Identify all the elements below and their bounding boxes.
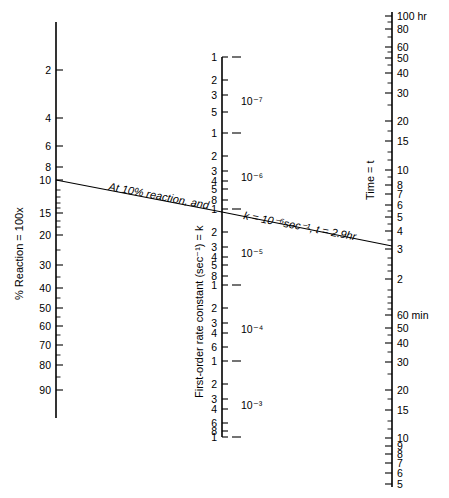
index-line-group: At 10% reaction, and k = 10⁻⁶sec⁻¹, t = … xyxy=(56,180,392,246)
tick-label: 70 xyxy=(39,339,51,351)
tick-label: 2 xyxy=(397,273,403,285)
tick-label: 90 xyxy=(39,384,51,396)
decade-label: 10⁻⁷ xyxy=(241,95,263,107)
index-line-annotation-right: k = 10⁻⁶sec⁻¹, t = 2.9hr xyxy=(243,209,359,242)
tick-label: 10 xyxy=(39,174,51,186)
nomogram-figure: 246810152030405060708090 % Reaction = 10… xyxy=(0,0,449,498)
tick-label: 4 xyxy=(211,327,217,339)
percent-reaction-ticks xyxy=(56,70,63,390)
nomogram-canvas: 246810152030405060708090 % Reaction = 10… xyxy=(0,0,449,498)
time-tick-labels: 100 hr8060504030201510876543260 min50403… xyxy=(397,10,429,490)
tick-label: 40 xyxy=(39,282,51,294)
percent-reaction-axis-title: % Reaction = 100x xyxy=(13,207,25,300)
tick-label: 50 xyxy=(397,322,409,334)
tick-label: 1 xyxy=(211,203,217,215)
tick-label: 4 xyxy=(397,225,403,237)
tick-label: 40 xyxy=(397,337,409,349)
rate-constant-decade-labels: 10⁻⁷10⁻⁶10⁻⁵10⁻⁴10⁻³ xyxy=(241,95,263,411)
tick-label: 30 xyxy=(397,356,409,368)
index-line-annotation-left: At 10% reaction, and xyxy=(107,180,211,211)
tick-label: 4 xyxy=(45,112,51,124)
tick-label: 20 xyxy=(397,384,409,396)
tick-label: 5 xyxy=(211,106,217,118)
tick-label: 1 xyxy=(211,127,217,139)
axis-rate-constant: 1235123458123458123461234681 10⁻⁷10⁻⁶10⁻… xyxy=(193,51,263,443)
tick-label: 4 xyxy=(211,403,217,415)
decade-label: 10⁻⁴ xyxy=(241,323,263,335)
tick-label: 2 xyxy=(211,74,217,86)
tick-label: 60 xyxy=(39,320,51,332)
tick-label: 20 xyxy=(39,229,51,241)
tick-label: 8 xyxy=(45,161,51,173)
tick-label: 1 xyxy=(211,355,217,367)
tick-label: 40 xyxy=(397,67,409,79)
tick-label: 15 xyxy=(397,135,409,147)
tick-label: 50 xyxy=(397,52,409,64)
tick-label: 1 xyxy=(211,279,217,291)
time-ticks xyxy=(385,16,392,484)
tick-label: 15 xyxy=(39,207,51,219)
tick-label: 1 xyxy=(211,431,217,443)
tick-label: 2 xyxy=(211,150,217,162)
rate-constant-tick-labels: 1235123458123458123461234681 xyxy=(211,51,217,443)
tick-label: 2 xyxy=(45,64,51,76)
time-axis-title: Time = t xyxy=(364,160,376,200)
tick-label: 10 xyxy=(397,164,409,176)
axis-percent-reaction: 246810152030405060708090 % Reaction = 10… xyxy=(13,22,63,418)
tick-label: 6 xyxy=(211,341,217,353)
tick-label: 80 xyxy=(397,23,409,35)
tick-label: 2 xyxy=(211,378,217,390)
tick-label: 5 xyxy=(397,478,403,490)
decade-label: 10⁻³ xyxy=(241,399,263,411)
tick-label: 5 xyxy=(397,211,403,223)
tick-label: 3 xyxy=(211,89,217,101)
tick-label: 15 xyxy=(397,404,409,416)
tick-label: 20 xyxy=(397,115,409,127)
tick-label: 2 xyxy=(211,226,217,238)
rate-constant-ticks xyxy=(222,57,241,437)
tick-label: 100 hr xyxy=(397,10,427,22)
rate-constant-axis-title: First-order rate constant (sec⁻¹) = k xyxy=(193,225,205,398)
decade-label: 10⁻⁵ xyxy=(241,247,263,259)
tick-label: 30 xyxy=(39,259,51,271)
tick-label: 80 xyxy=(39,359,51,371)
tick-label: 1 xyxy=(211,51,217,63)
tick-label: 60 min xyxy=(397,309,429,321)
percent-reaction-tick-labels: 246810152030405060708090 xyxy=(39,64,51,396)
decade-label: 10⁻⁶ xyxy=(241,171,263,183)
tick-label: 50 xyxy=(39,302,51,314)
tick-label: 6 xyxy=(397,199,403,211)
tick-label: 2 xyxy=(211,302,217,314)
tick-label: 3 xyxy=(397,243,403,255)
axis-time: 100 hr8060504030201510876543260 min50403… xyxy=(364,10,429,490)
tick-label: 30 xyxy=(397,87,409,99)
tick-label: 6 xyxy=(45,140,51,152)
